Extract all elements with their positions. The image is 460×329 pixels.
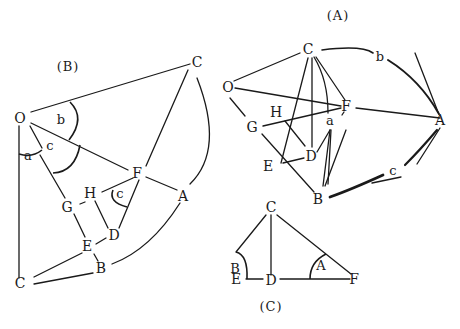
angle-label-c-at-F: c bbox=[116, 186, 123, 201]
arc-c-B bbox=[330, 175, 383, 197]
line-O-G bbox=[230, 98, 245, 116]
point-B: B bbox=[96, 260, 106, 276]
line-FA bbox=[356, 108, 440, 118]
arc-label-b: b bbox=[376, 49, 384, 64]
line-CE bbox=[34, 253, 82, 277]
angle-label-c-at-O: c bbox=[46, 138, 53, 153]
point-E: E bbox=[82, 238, 92, 254]
point-O: O bbox=[222, 79, 233, 95]
point-C: C bbox=[266, 199, 277, 215]
point-G: G bbox=[246, 119, 257, 135]
figure-a-caption: (A) bbox=[327, 8, 350, 23]
point-F: F bbox=[349, 271, 359, 287]
line-GE bbox=[74, 214, 85, 237]
arc-A-c bbox=[405, 130, 437, 165]
point-F: F bbox=[341, 98, 351, 114]
point-C-bottom: C bbox=[15, 275, 26, 291]
line-OC bbox=[234, 53, 300, 81]
point-A: A bbox=[434, 112, 446, 128]
figure-a: (A) C O F A H G D E bbox=[222, 8, 446, 208]
point-G: G bbox=[61, 199, 72, 215]
line-CE bbox=[236, 215, 266, 252]
tangent-A-upper bbox=[415, 53, 438, 112]
line-O-to-a bbox=[30, 126, 42, 148]
angle-label-a: a bbox=[24, 148, 32, 163]
point-A: A bbox=[177, 188, 189, 204]
point-H: H bbox=[84, 185, 96, 201]
line-toward-G bbox=[40, 155, 65, 198]
tangent-A-lower bbox=[417, 128, 440, 164]
arc-label-a: a bbox=[326, 113, 334, 128]
point-C-top: C bbox=[192, 54, 203, 70]
point-F: F bbox=[132, 165, 142, 181]
point-D: D bbox=[108, 227, 119, 243]
point-B: B bbox=[313, 191, 323, 207]
arc-b-A bbox=[388, 60, 439, 114]
point-E: E bbox=[263, 158, 273, 174]
figure-b: (B) O C C F A H G D E B bbox=[14, 54, 209, 291]
angle-label-b: b bbox=[57, 112, 65, 127]
line-CF bbox=[146, 70, 188, 166]
line-HD bbox=[95, 201, 108, 228]
line-GH bbox=[80, 202, 85, 204]
point-H: H bbox=[270, 104, 282, 120]
geometry-diagram: (B) O C C F A H G D E B bbox=[0, 0, 460, 329]
angle-arc-c-at-O bbox=[53, 145, 80, 173]
line-FA bbox=[146, 177, 177, 190]
point-D: D bbox=[265, 272, 276, 288]
angle-arc-b bbox=[69, 102, 78, 140]
arc-C-A bbox=[190, 78, 209, 184]
line-CB bbox=[34, 273, 93, 284]
line-CE bbox=[281, 58, 308, 163]
figure-c-caption: (C) bbox=[259, 299, 282, 314]
arc-A-B bbox=[112, 203, 180, 264]
arc-label-c: c bbox=[389, 163, 396, 178]
figure-c: (C) C E D F B A bbox=[230, 199, 359, 314]
angle-label-B: B bbox=[230, 261, 240, 276]
line-ED bbox=[96, 238, 106, 244]
angle-label-A: A bbox=[315, 258, 326, 273]
figure-b-caption: (B) bbox=[57, 59, 80, 74]
line-B-upper bbox=[325, 130, 346, 186]
line-CF bbox=[316, 57, 345, 100]
arc-C-b bbox=[322, 48, 373, 53]
line-OC-top bbox=[31, 64, 190, 112]
point-O: O bbox=[14, 110, 25, 126]
point-D: D bbox=[305, 148, 316, 164]
point-C: C bbox=[303, 41, 314, 57]
line-OF bbox=[235, 88, 341, 106]
